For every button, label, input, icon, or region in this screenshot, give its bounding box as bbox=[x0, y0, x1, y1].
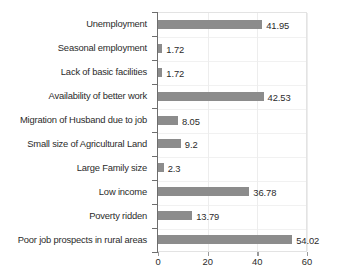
y-tick bbox=[152, 60, 157, 61]
category-label: Large Family size bbox=[77, 163, 147, 173]
y-tick bbox=[152, 228, 157, 229]
bar-slot: 36.78 bbox=[158, 180, 306, 204]
bar[interactable]: 36.78 bbox=[158, 187, 249, 196]
x-tick-label: 0 bbox=[155, 256, 160, 267]
x-axis-labels: 0204060 bbox=[158, 256, 307, 272]
x-tick-label: 60 bbox=[302, 256, 312, 267]
y-tick bbox=[152, 180, 157, 181]
bar-slot: 13.79 bbox=[158, 203, 306, 227]
bar-chart: Unemployment Seasonal employment Lack of… bbox=[0, 0, 340, 275]
bars-container: 41.951.721.7242.538.059.22.336.7813.7954… bbox=[158, 13, 306, 251]
bar-value-label: 8.05 bbox=[182, 116, 200, 127]
category-label: Availability of better work bbox=[49, 91, 147, 101]
category-label-row: Lack of basic facilities bbox=[0, 60, 152, 84]
y-tick bbox=[152, 132, 157, 133]
bar[interactable]: 42.53 bbox=[158, 92, 264, 101]
x-tick-label: 20 bbox=[202, 256, 212, 267]
category-label-row: Small size of Agricultural Land bbox=[0, 132, 152, 156]
y-axis-line bbox=[157, 12, 158, 253]
bar[interactable]: 13.79 bbox=[158, 211, 192, 220]
bar[interactable]: 1.72 bbox=[158, 44, 162, 53]
y-tick bbox=[152, 84, 157, 85]
bar-slot: 1.72 bbox=[158, 37, 306, 61]
category-label-row: Migration of Husband due to job bbox=[0, 108, 152, 132]
y-tick bbox=[152, 108, 157, 109]
plot-area: 41.951.721.7242.538.059.22.336.7813.7954… bbox=[158, 12, 307, 252]
y-tick bbox=[152, 12, 157, 13]
bar-slot: 41.95 bbox=[158, 13, 306, 37]
category-axis-labels: Unemployment Seasonal employment Lack of… bbox=[0, 12, 152, 252]
category-label-row: Seasonal employment bbox=[0, 36, 152, 60]
bar-value-label: 42.53 bbox=[268, 92, 291, 103]
category-label-row: Unemployment bbox=[0, 12, 152, 36]
bar-value-label: 41.95 bbox=[266, 20, 289, 31]
y-tick bbox=[152, 252, 157, 253]
bar[interactable]: 1.72 bbox=[158, 68, 162, 77]
bar-slot: 1.72 bbox=[158, 61, 306, 85]
category-label: Migration of Husband due to job bbox=[20, 115, 147, 125]
bar-value-label: 9.2 bbox=[185, 139, 198, 150]
x-tick-label: 40 bbox=[252, 256, 262, 267]
y-tick bbox=[152, 36, 157, 37]
category-label-row: Availability of better work bbox=[0, 84, 152, 108]
category-label: Poverty ridden bbox=[89, 211, 147, 221]
y-tick bbox=[152, 204, 157, 205]
bar-value-label: 1.72 bbox=[166, 68, 184, 79]
bar[interactable]: 54.02 bbox=[158, 235, 292, 244]
bar-slot: 2.3 bbox=[158, 156, 306, 180]
category-label: Lack of basic facilities bbox=[61, 67, 147, 77]
bar-value-label: 13.79 bbox=[196, 211, 219, 222]
bar-value-label: 2.3 bbox=[168, 163, 181, 174]
bar-slot: 9.2 bbox=[158, 132, 306, 156]
category-label-row: Low income bbox=[0, 180, 152, 204]
bar[interactable]: 2.3 bbox=[158, 163, 164, 172]
bar[interactable]: 9.2 bbox=[158, 139, 181, 148]
category-label: Unemployment bbox=[86, 19, 147, 29]
category-label-row: Poverty ridden bbox=[0, 204, 152, 228]
category-label: Seasonal employment bbox=[58, 43, 147, 53]
bar-slot: 54.02 bbox=[158, 227, 306, 251]
category-label-row: Large Family size bbox=[0, 156, 152, 180]
category-label: Small size of Agricultural Land bbox=[27, 139, 147, 149]
category-label: Poor job prospects in rural areas bbox=[18, 235, 147, 245]
bar-slot: 8.05 bbox=[158, 108, 306, 132]
bar-value-label: 1.72 bbox=[166, 44, 184, 55]
bar-value-label: 54.02 bbox=[296, 235, 319, 246]
bar[interactable]: 8.05 bbox=[158, 116, 178, 125]
bar-slot: 42.53 bbox=[158, 84, 306, 108]
gridline-x-60 bbox=[307, 13, 308, 251]
y-tick bbox=[152, 156, 157, 157]
bar[interactable]: 41.95 bbox=[158, 20, 262, 29]
category-label-row: Poor job prospects in rural areas bbox=[0, 228, 152, 252]
bar-value-label: 36.78 bbox=[253, 187, 276, 198]
category-label: Low income bbox=[99, 187, 147, 197]
